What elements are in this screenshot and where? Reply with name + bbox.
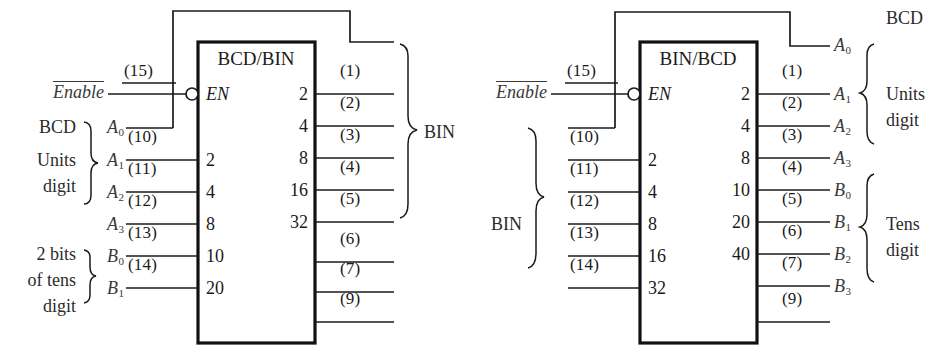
block-title-bcd-bin: BCD/BIN	[217, 49, 294, 68]
pin-12-left: (12)	[128, 192, 157, 209]
signal-a0-left: A0	[107, 118, 124, 138]
weight-out-16-left: 16	[290, 181, 308, 199]
weight-out-4-left: 4	[299, 117, 308, 135]
out-pin-2-left: (2)	[340, 94, 360, 111]
group-label-units-right: Units	[886, 85, 925, 103]
pin-11-right: (11)	[570, 160, 599, 177]
pin-15-right: (15)	[567, 62, 596, 79]
pin-11-left: (11)	[128, 160, 157, 177]
group-label-bin-right: BIN	[491, 215, 522, 233]
weight-in-32-right: 32	[648, 279, 666, 297]
group-label-digit-left: digit	[43, 177, 76, 195]
signal-b0-left: B0	[107, 247, 124, 267]
en-inner-label-left: EN	[206, 85, 229, 103]
weight-out-4-right: 4	[741, 117, 750, 135]
signal-a0-right: A0	[834, 36, 851, 56]
weight-out-2-right: 2	[741, 85, 750, 103]
group-label-units-left: Units	[37, 151, 76, 169]
signal-b1-left: B1	[107, 279, 124, 299]
weight-in-16-right: 16	[648, 247, 666, 265]
pin-13-left: (13)	[128, 224, 157, 241]
brace-units-right	[860, 44, 874, 144]
signal-a2-right: A2	[834, 117, 851, 137]
out-pin-9-right: (9)	[782, 290, 802, 307]
weight-out-32-left: 32	[290, 213, 308, 231]
brace-bcd-units-left	[84, 122, 98, 204]
pin-14-right: (14)	[570, 256, 599, 273]
weight-in-4-left: 4	[206, 183, 215, 201]
enable-bubble-left	[186, 88, 198, 100]
out-pin-2-right: (2)	[782, 94, 802, 111]
out-pin-6-left: (6)	[340, 230, 360, 247]
out-pin-7-left: (7)	[340, 260, 360, 277]
out-pin-7-right: (7)	[782, 254, 802, 271]
brace-tens-right	[860, 174, 874, 282]
out-pin-1-right: (1)	[782, 62, 802, 79]
out-pin-4-right: (4)	[782, 158, 802, 175]
weight-out-8-left: 8	[299, 149, 308, 167]
signal-b1-right: B1	[834, 213, 851, 233]
out-pin-9-left: (9)	[340, 290, 360, 307]
en-inner-label-right: EN	[648, 85, 671, 103]
weight-in-2-left: 2	[206, 151, 215, 169]
block-title-bin-bcd: BIN/BCD	[659, 49, 736, 68]
out-pin-3-left: (3)	[340, 126, 360, 143]
weight-out-10-right: 10	[732, 181, 750, 199]
brace-tens-left	[84, 250, 96, 303]
group-label-bcd-left: BCD	[39, 118, 76, 136]
group-label-digit2-left: digit	[43, 297, 76, 315]
out-pin-5-right: (5)	[782, 190, 802, 207]
group-label-oftens-left: of tens	[28, 271, 77, 289]
signal-b2-right: B2	[834, 245, 851, 265]
weight-out-8-right: 8	[741, 149, 750, 167]
weight-out-20-right: 20	[732, 213, 750, 231]
group-label-tens-right: Tens	[886, 215, 920, 233]
enable-label-left: Enable	[53, 81, 104, 101]
pin-14-left: (14)	[128, 256, 157, 273]
pin-13-right: (13)	[570, 224, 599, 241]
pin-12-right: (12)	[570, 192, 599, 209]
weight-in-8-left: 8	[206, 215, 215, 233]
group-label-bin-left: BIN	[424, 123, 455, 141]
signal-a3-right: A3	[834, 149, 851, 169]
out-pin-4-left: (4)	[340, 158, 360, 175]
group-label-2bits-left: 2 bits	[36, 245, 76, 263]
enable-text-right: Enable	[496, 82, 547, 102]
group-label-digit2-right: digit	[886, 241, 919, 259]
brace-bin-right	[528, 128, 544, 268]
pin-10-right: (10)	[570, 128, 599, 145]
weight-in-2-right: 2	[648, 151, 657, 169]
out-pin-1-left: (1)	[340, 62, 360, 79]
signal-a1-right: A1	[834, 85, 851, 105]
weight-in-20-left: 20	[206, 279, 224, 297]
out-pin-6-right: (6)	[782, 222, 802, 239]
signal-b3-right: B3	[834, 277, 851, 297]
weight-out-2-left: 2	[299, 85, 308, 103]
weight-in-4-right: 4	[648, 183, 657, 201]
weight-out-40-right: 40	[732, 245, 750, 263]
weight-in-8-right: 8	[648, 215, 657, 233]
enable-bubble-right	[628, 88, 640, 100]
pin-15-left: (15)	[124, 62, 153, 79]
figure-canvas: BCD/BIN Enable (15) EN BCD Units digit 2…	[0, 0, 932, 362]
signal-a1-left: A1	[107, 151, 124, 171]
group-label-bcd-right: BCD	[886, 9, 923, 27]
signal-a2-left: A2	[107, 183, 124, 203]
group-label-digit-right: digit	[886, 111, 919, 129]
out-pin-5-left: (5)	[340, 190, 360, 207]
signal-a3-left: A3	[107, 215, 124, 235]
pin-10-left: (10)	[128, 128, 157, 145]
enable-label-right: Enable	[496, 81, 547, 101]
signal-b0-right: B0	[834, 181, 851, 201]
brace-bin-left	[400, 44, 417, 218]
enable-text-left: Enable	[53, 82, 104, 102]
weight-in-10-left: 10	[206, 247, 224, 265]
out-pin-3-right: (3)	[782, 126, 802, 143]
